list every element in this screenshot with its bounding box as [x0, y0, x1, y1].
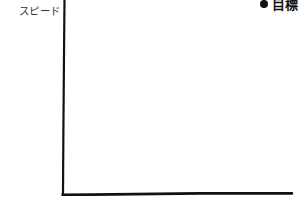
y-axis-line — [63, 0, 65, 195]
axes — [0, 0, 300, 198]
chart: スピード 目標 — [0, 0, 300, 198]
x-axis-line — [63, 193, 293, 195]
